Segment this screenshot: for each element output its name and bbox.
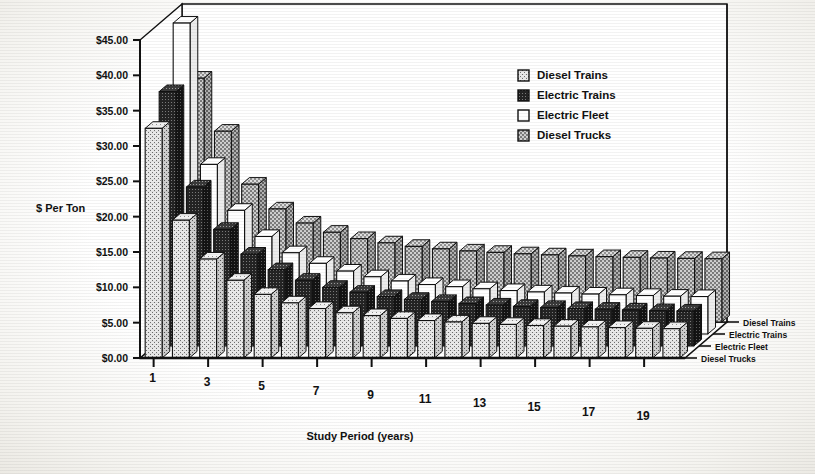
scan-texture-overlay [0,0,815,474]
